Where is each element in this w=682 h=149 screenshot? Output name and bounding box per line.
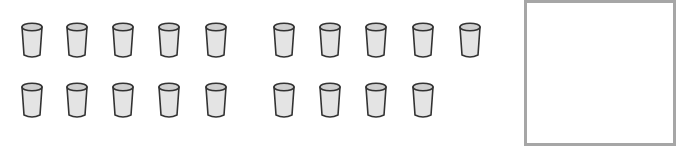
cup-icon (19, 20, 45, 60)
cup-icon (457, 20, 483, 60)
answer-box[interactable] (524, 0, 676, 146)
cup-icon (410, 80, 436, 120)
cup-icon (19, 80, 45, 120)
cup-icon (410, 20, 436, 60)
cup-icon (110, 20, 136, 60)
cup-icon (203, 20, 229, 60)
cup-icon (363, 80, 389, 120)
cup-icon (271, 20, 297, 60)
cup-icon (363, 20, 389, 60)
cup-icon (64, 80, 90, 120)
cup-icon (317, 80, 343, 120)
cup-icon (110, 80, 136, 120)
cup-icon (156, 20, 182, 60)
cup-icon (156, 80, 182, 120)
cup-icon (64, 20, 90, 60)
cup-icon (271, 80, 297, 120)
cup-icon (317, 20, 343, 60)
cup-icon (203, 80, 229, 120)
